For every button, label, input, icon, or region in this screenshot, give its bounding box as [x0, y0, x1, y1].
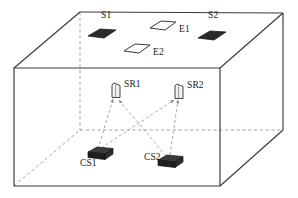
ceiling-panel-e1 — [150, 21, 176, 30]
ceiling-panel-s2 — [198, 31, 226, 40]
edge-floor-left-diagonal — [14, 130, 80, 186]
source-cs2 — [158, 155, 183, 168]
signal-paths — [98, 99, 178, 156]
receivers — [112, 83, 183, 99]
receiver-sr2-body — [175, 84, 183, 99]
signal-path-cs2-sr2 — [170, 100, 178, 155]
signal-path-cs2-sr1 — [119, 100, 166, 156]
scene-canvas — [0, 0, 298, 198]
label-sr2: SR2 — [187, 81, 204, 91]
sources — [88, 147, 183, 168]
label-e1: E1 — [179, 25, 190, 35]
receiver-sr1 — [112, 83, 120, 98]
label-s2: S2 — [208, 11, 218, 21]
edge-ceiling-right-diagonal — [220, 13, 283, 68]
label-s1: S1 — [101, 11, 111, 21]
label-cs2: CS2 — [144, 153, 161, 163]
receiver-sr2 — [175, 84, 183, 99]
edge-right-bottom-diagonal — [220, 130, 283, 186]
signal-path-cs1-sr2 — [101, 100, 174, 148]
ceiling-panel-s1 — [88, 29, 116, 38]
label-sr1: SR1 — [124, 80, 141, 90]
label-cs1: CS1 — [80, 159, 97, 169]
room-layout-figure: S1 E1 S2 E2 SR1 SR2 CS1 CS2 — [0, 0, 298, 198]
label-e2: E2 — [153, 48, 164, 58]
ceiling-panel-e2 — [124, 44, 150, 53]
edge-ceiling-left-diagonal — [14, 12, 80, 68]
receiver-sr1-body — [112, 83, 120, 98]
